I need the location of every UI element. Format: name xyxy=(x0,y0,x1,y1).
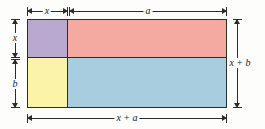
dimension-label-top-a: a xyxy=(144,6,153,16)
arrow-right-icon xyxy=(222,115,227,121)
arrow-down-icon xyxy=(234,103,240,108)
diagram-canvas: x a x b x + b x + a xyxy=(0,0,265,129)
arrow-up-icon xyxy=(12,59,18,64)
arrow-left-icon xyxy=(27,115,32,121)
arrow-right-icon xyxy=(222,8,227,14)
arrow-left-icon xyxy=(69,8,74,14)
dimension-label-left-x: x xyxy=(11,33,19,43)
arrow-up-icon xyxy=(234,19,240,24)
dimension-label-bottom-total: x + a xyxy=(114,113,139,123)
arrow-down-icon xyxy=(12,103,18,108)
dimension-label-right-total: x + b xyxy=(227,58,252,68)
arrow-right-icon xyxy=(63,8,68,14)
arrow-down-icon xyxy=(12,53,18,58)
dimension-label-left-b: b xyxy=(11,79,20,89)
arrow-up-icon xyxy=(12,19,18,24)
dimension-label-top-x: x xyxy=(43,6,51,16)
rectangle-outline xyxy=(27,19,227,108)
arrow-left-icon xyxy=(27,8,32,14)
